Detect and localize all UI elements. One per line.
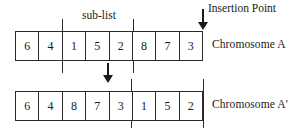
gene-cell: 7 <box>86 92 109 120</box>
insertion-point-arrow-icon <box>198 9 209 31</box>
chromosome-a-prime-row: 6 4 8 7 3 1 5 2 <box>15 91 203 121</box>
arrow-shaft <box>202 9 204 23</box>
sublist-label: sub-list <box>66 9 132 21</box>
gene-cell: 6 <box>16 92 39 120</box>
gene-cell: 8 <box>133 32 156 60</box>
gene-cell: 4 <box>39 92 62 120</box>
arrow-head <box>103 75 113 83</box>
gene-cell: 3 <box>180 32 202 60</box>
gene-cell: 1 <box>63 32 86 60</box>
chromosome-a-prime-label: Chromosome A' <box>212 98 288 110</box>
insertion-point-label: Insertion Point <box>208 2 276 14</box>
gene-cell: 7 <box>156 32 179 60</box>
gene-cell: 3 <box>110 92 133 120</box>
gene-cell: 5 <box>86 32 109 60</box>
insertion-mutation-diagram: sub-list Insertion Point 6 4 1 5 2 8 7 3… <box>0 0 302 128</box>
gene-cell: 2 <box>110 32 133 60</box>
transform-arrow-icon <box>103 63 114 89</box>
gene-cell: 2 <box>180 92 202 120</box>
gene-cell: 5 <box>156 92 179 120</box>
gene-cell: 8 <box>63 92 86 120</box>
arrow-head <box>198 22 208 30</box>
gene-cell: 4 <box>39 32 62 60</box>
sublist-end-marker-bottom <box>203 79 204 128</box>
gene-cell: 6 <box>16 32 39 60</box>
gene-cell: 1 <box>133 92 156 120</box>
chromosome-a-row: 6 4 1 5 2 8 7 3 <box>15 31 203 61</box>
chromosome-a-label: Chromosome A <box>212 38 286 50</box>
